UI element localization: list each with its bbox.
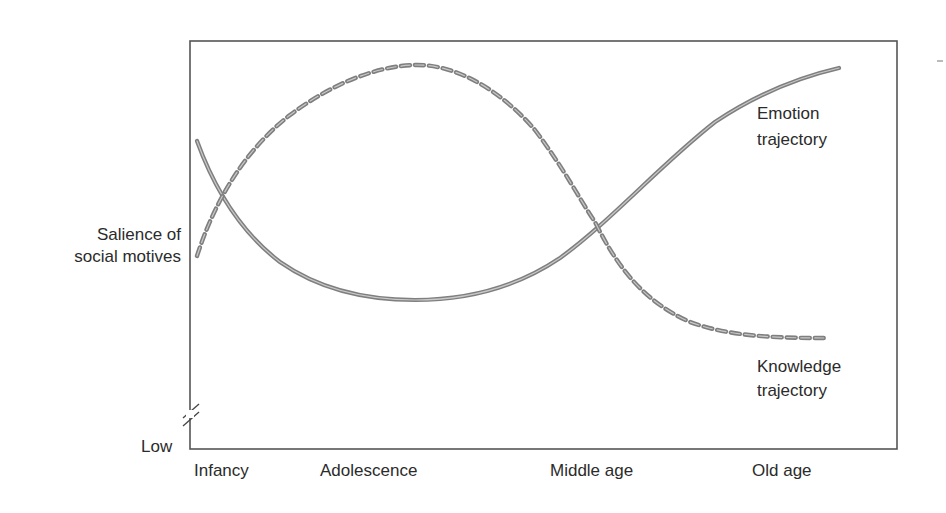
x-tick-middle-age: Middle age xyxy=(550,460,633,482)
x-tick-infancy: Infancy xyxy=(194,460,249,482)
knowledge-trajectory-label: Knowledge trajectory xyxy=(757,355,841,403)
x-tick-adolescence: Adolescence xyxy=(320,460,417,482)
knowledge-label-line2: trajectory xyxy=(757,379,841,403)
y-axis-label-line2: social motives xyxy=(74,246,181,268)
emotion-label-line1: Emotion xyxy=(757,101,827,127)
y-axis-label-line1: Salience of xyxy=(74,224,181,246)
y-low-label: Low xyxy=(141,436,172,458)
emotion-trajectory-line xyxy=(197,68,839,300)
y-axis-label: Salience of social motives xyxy=(74,224,181,268)
emotion-label-line2: trajectory xyxy=(757,127,827,153)
knowledge-trajectory-line xyxy=(197,65,826,338)
x-tick-old-age: Old age xyxy=(752,460,812,482)
emotion-trajectory-label: Emotion trajectory xyxy=(757,101,827,153)
knowledge-label-line1: Knowledge xyxy=(757,355,841,379)
